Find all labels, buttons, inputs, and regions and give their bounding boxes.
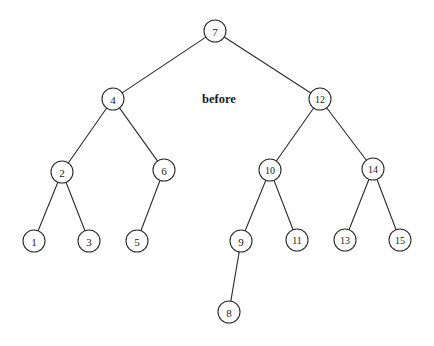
tree-edge-4-6: [119, 108, 157, 161]
tree-edge-9-8: [231, 252, 239, 301]
node-label-4: 4: [110, 94, 116, 106]
node-label-15: 15: [395, 235, 405, 246]
tree-edge-4-2: [68, 108, 106, 163]
node-label-8: 8: [226, 307, 232, 319]
node-label-6: 6: [161, 165, 167, 177]
tree-edge-7-4: [122, 37, 206, 93]
tree-node-14[interactable]: 14: [362, 158, 384, 180]
node-label-9: 9: [238, 236, 244, 248]
tree-edge-12-10: [276, 108, 313, 161]
tree-edge-10-9: [245, 180, 266, 231]
node-label-13: 13: [340, 235, 350, 246]
tree-node-4[interactable]: 4: [102, 88, 124, 110]
figure-caption: before: [202, 92, 236, 106]
node-label-14: 14: [368, 164, 378, 175]
tree-node-1[interactable]: 1: [23, 230, 45, 252]
tree-node-9[interactable]: 9: [230, 230, 252, 252]
node-label-2: 2: [59, 167, 65, 179]
node-label-10: 10: [265, 165, 275, 176]
tree-edge-12-14: [327, 108, 367, 160]
tree-node-5[interactable]: 5: [126, 230, 148, 252]
tree-edge-2-1: [38, 182, 58, 231]
tree-node-11[interactable]: 11: [286, 229, 308, 251]
tree-node-8[interactable]: 8: [218, 301, 240, 323]
tree-edge-14-13: [349, 179, 369, 230]
node-layer: 741226101413591113158: [23, 20, 411, 323]
node-label-3: 3: [86, 236, 92, 248]
tree-node-7[interactable]: 7: [204, 20, 226, 42]
tree-edge-14-15: [377, 179, 396, 229]
tree-node-13[interactable]: 13: [334, 229, 356, 251]
tree-node-6[interactable]: 6: [153, 159, 175, 181]
tree-node-12[interactable]: 12: [309, 88, 331, 110]
node-label-7: 7: [212, 26, 218, 38]
node-label-1: 1: [31, 236, 37, 248]
tree-edge-2-3: [66, 182, 85, 231]
edge-layer: [38, 37, 396, 301]
node-label-11: 11: [292, 235, 302, 246]
tree-edge-7-12: [224, 37, 311, 93]
tree-edge-6-5: [141, 180, 160, 230]
tree-canvas: 741226101413591113158 before: [0, 0, 434, 346]
node-label-12: 12: [315, 94, 325, 105]
tree-edge-10-11: [274, 180, 293, 229]
node-label-5: 5: [134, 236, 140, 248]
tree-node-3[interactable]: 3: [78, 230, 100, 252]
binary-tree-figure: 741226101413591113158 before: [0, 0, 434, 346]
tree-node-2[interactable]: 2: [51, 161, 73, 183]
tree-node-15[interactable]: 15: [389, 229, 411, 251]
tree-node-10[interactable]: 10: [259, 159, 281, 181]
